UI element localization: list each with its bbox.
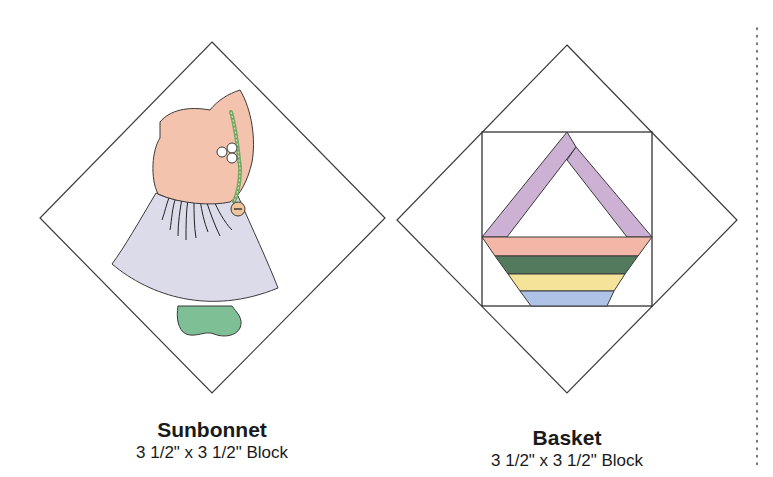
basket-block xyxy=(397,45,737,393)
button-icon xyxy=(231,202,245,216)
basket-caption: Basket 3 1/2" x 3 1/2" Block xyxy=(437,426,697,472)
sunbonnet-size: 3 1/2" x 3 1/2" Block xyxy=(82,442,342,464)
shoe-icon xyxy=(177,306,241,336)
sunbonnet-title: Sunbonnet xyxy=(82,418,342,442)
basket-stripe-yellow xyxy=(508,274,625,291)
basket-stripe-pink xyxy=(482,237,652,256)
sunbonnet-caption: Sunbonnet 3 1/2" x 3 1/2" Block xyxy=(82,418,342,464)
sunbonnet-block xyxy=(40,42,385,393)
quilt-block-diagram xyxy=(0,0,773,477)
basket-title: Basket xyxy=(437,426,697,450)
basket-size: 3 1/2" x 3 1/2" Block xyxy=(437,450,697,472)
basket-stripe-blue xyxy=(520,291,614,306)
basket-stripe-green xyxy=(495,256,638,274)
